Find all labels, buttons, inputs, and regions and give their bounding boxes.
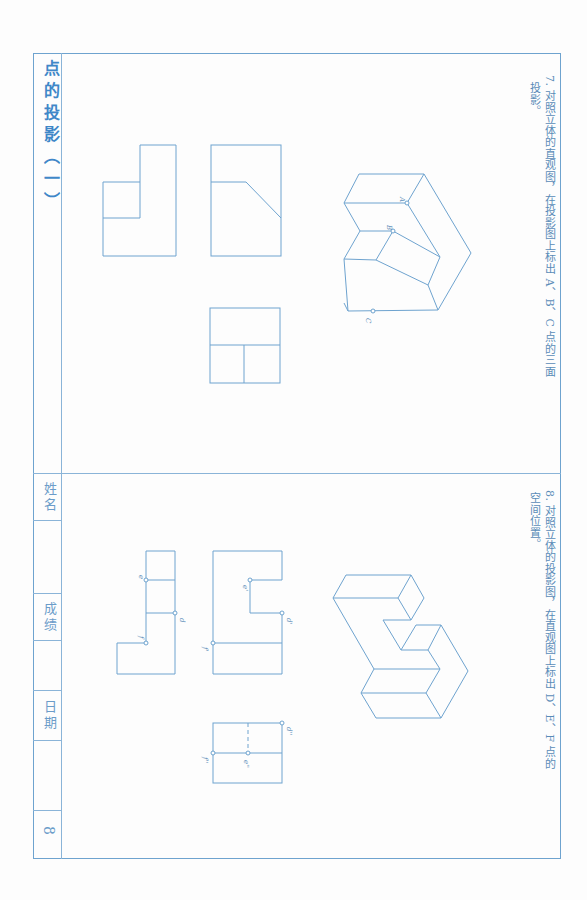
label-d-double-prime: d'' <box>285 727 293 735</box>
q7-view-top <box>210 308 280 383</box>
q7-pictorial-drawing <box>344 174 471 313</box>
q8-view-side <box>117 551 177 674</box>
q8-view-top <box>211 721 284 783</box>
label-f-prime: f' <box>201 646 209 652</box>
label-d: d <box>178 618 186 623</box>
q8-view-front <box>211 551 284 674</box>
q7-view-side <box>103 145 176 256</box>
label-f-double-prime: f'' <box>201 756 209 764</box>
label-B: B <box>385 224 393 230</box>
label-A: A <box>398 196 406 202</box>
label-e-prime: e' <box>241 585 249 591</box>
q8-pictorial-drawing <box>333 575 468 718</box>
label-e: e <box>137 575 145 579</box>
drawings: A B C <box>0 0 587 900</box>
label-d-prime: d' <box>285 618 293 624</box>
label-e-double-prime: e'' <box>242 760 250 768</box>
label-C: C <box>364 318 372 324</box>
q7-view-front <box>211 145 281 256</box>
label-f: f <box>137 635 145 640</box>
